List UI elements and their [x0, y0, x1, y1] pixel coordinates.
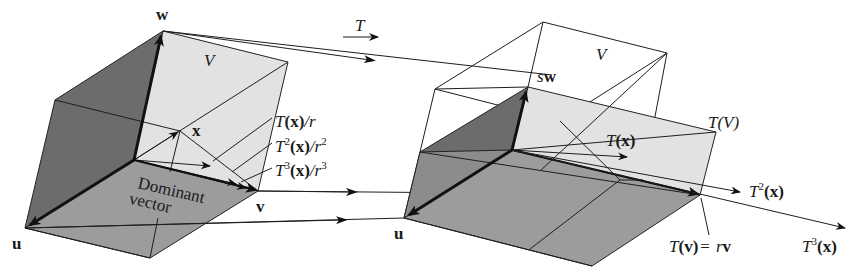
left-parallelepiped: [25, 31, 288, 258]
right-label-u: u: [394, 224, 403, 243]
left-label-w: w: [156, 5, 169, 24]
right-label-TV: T(V): [708, 113, 740, 132]
right-label-T2x: T2(x): [749, 180, 784, 201]
left-label-v: v: [256, 197, 265, 216]
power-method-diagram: T w V x u v Dominant vector T(x)/r T2(x)…: [0, 0, 857, 278]
right-label-sw: sw: [537, 67, 557, 86]
right-label-Tx: T(x): [606, 131, 635, 150]
right-label-T3x: T3(x): [802, 235, 837, 256]
left-label-u: u: [12, 234, 21, 253]
iterate-3-label: T3(x)/r3: [275, 159, 327, 180]
iterate-1-label: T(x)/r: [275, 112, 316, 131]
iterate-2-label: T2(x)/r2: [275, 135, 327, 156]
right-label-V: V: [596, 45, 609, 64]
right-label-Tv: T(v)=rv: [669, 237, 732, 256]
left-label-x: x: [192, 121, 201, 140]
map-label: T: [355, 16, 366, 35]
